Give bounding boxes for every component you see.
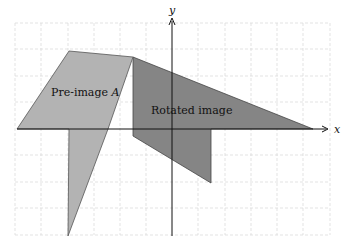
y-axis-label: y (168, 4, 176, 17)
x-axis-label: x (334, 123, 341, 136)
axes (17, 21, 326, 236)
rotated-image-label: Rotated image (151, 104, 232, 117)
pre-image-label: Pre-image A (51, 86, 119, 99)
rotation-diagram: x y Pre-image A Rotated image (0, 0, 355, 246)
pre-image-label-letter: A (110, 86, 119, 99)
pre-image-label-text: Pre-image (51, 86, 111, 99)
